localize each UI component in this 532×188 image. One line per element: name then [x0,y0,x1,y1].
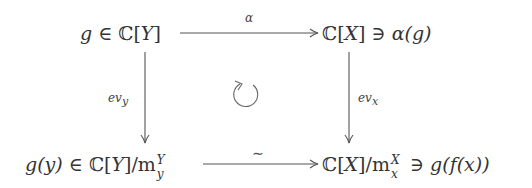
bracket-close-quotient: ]/ [124,153,138,175]
ring-symbol: ℂ [322,153,337,175]
ideal-subscript: y [157,168,164,180]
ev-text: ev [108,91,122,105]
bracket-close-quotient: ]/ [358,153,372,175]
node-bottom-left: g(y) ∈ ℂ[Y]/mYy [25,155,170,174]
element-expression: g(f(x)) [430,153,490,175]
bracket-open: [ [337,153,344,175]
contains-symbol: ∋ [404,153,430,175]
ideal-subscript: x [391,168,398,180]
right-arrow-label: evx [358,92,378,104]
maximal-ideal-symbol: m [372,153,390,175]
node-top-left: g ∈ ℂ[Y] [80,24,161,43]
node-top-right: ℂ[X] ∋ α(g) [322,24,431,43]
commutes-circle-icon [234,81,258,107]
alpha-symbol: α [392,22,405,44]
ring-symbol: ℂ [118,22,133,44]
ideal-scripts: Xx [390,170,404,171]
node-top-left-prefix: g ∈ [80,22,118,44]
ring-symbol: ℂ [322,22,337,44]
ideal-superscript: Y [157,154,165,166]
left-arrow-label: evy [108,92,128,104]
bottom-arrow-label: ∼ [252,146,264,160]
ring-symbol: ℂ [89,153,104,175]
top-arrow-label: α [245,12,253,24]
g-arg-contains: (y) ∈ [37,153,89,175]
bracket-open: [ [337,22,344,44]
ev-text: ev [358,91,372,105]
bracket-open: [ [133,22,140,44]
variety-var: Y [141,22,154,44]
ideal-scripts: Yy [156,170,170,171]
node-bottom-right: ℂ[X]/mXx ∋ g(f(x)) [322,155,490,174]
variety-var: X [345,22,359,44]
variety-var: X [345,153,359,175]
variety-var: Y [111,153,124,175]
alpha-arg: (g) [404,22,431,44]
ev-subscript: x [372,95,378,108]
g-symbol: g [25,153,37,175]
ev-subscript: y [122,95,128,108]
ideal-superscript: X [391,154,400,166]
bracket-close: ] [153,22,160,44]
bracket-close-contains: ] ∋ [358,22,392,44]
maximal-ideal-symbol: m [138,153,156,175]
